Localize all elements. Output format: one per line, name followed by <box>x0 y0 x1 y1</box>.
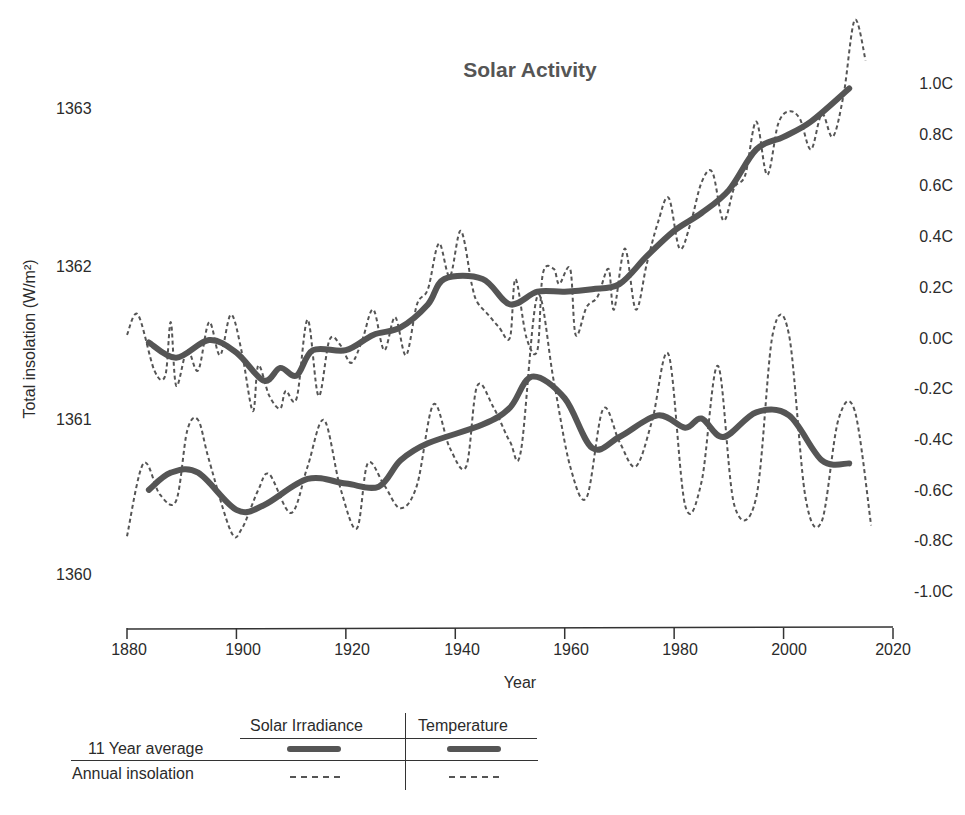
solar-irradiance-11yr-average-line <box>149 376 849 512</box>
y-tick-right: 0.6C <box>893 177 953 195</box>
x-tick: 1960 <box>546 641 596 659</box>
chart-title: Solar Activity <box>420 58 640 82</box>
y-tick-right: 0.2C <box>893 279 953 297</box>
y-tick-right: -1.0C <box>893 583 953 601</box>
x-tick: 2020 <box>868 641 918 659</box>
x-tick: 1940 <box>437 641 487 659</box>
y-tick-right: -0.4C <box>893 431 953 449</box>
y-tick-right: 1.0C <box>893 75 953 93</box>
y-tick-right: 0.8C <box>893 126 953 144</box>
y-axis-left-label: Total insolation (W/m²) <box>21 239 39 439</box>
x-axis-label: Year <box>480 674 560 692</box>
y-tick-right: -0.6C <box>893 482 953 500</box>
x-tick: 1900 <box>218 641 268 659</box>
y-tick-right: -0.2C <box>893 380 953 398</box>
y-tick-left: 1362 <box>56 258 92 276</box>
x-axis-line <box>127 627 893 629</box>
x-tick: 1980 <box>655 641 705 659</box>
x-tick: 1880 <box>104 641 154 659</box>
y-tick-right: 0.4C <box>893 228 953 246</box>
x-tick: 2000 <box>764 641 814 659</box>
y-tick-left: 1360 <box>56 566 92 584</box>
temperature-11yr-average-line <box>149 89 849 381</box>
y-tick-right: -0.8C <box>893 532 953 550</box>
chart-plot-area <box>0 0 965 815</box>
y-tick-left: 1363 <box>56 100 92 118</box>
y-tick-left: 1361 <box>56 411 92 429</box>
y-tick-right: 0.0C <box>893 330 953 348</box>
x-tick: 1920 <box>327 641 377 659</box>
